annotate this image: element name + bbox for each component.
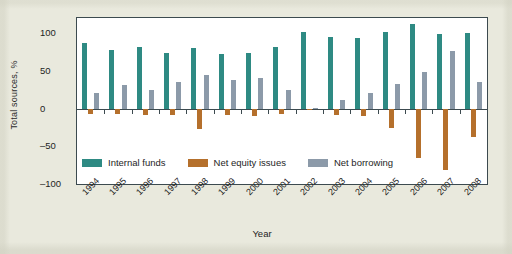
bar-net-equity-issues: [115, 109, 120, 114]
legend-item-internal-funds[interactable]: Internal funds: [82, 157, 166, 168]
x-axis-tick-mark: [132, 109, 133, 114]
bar-net-equity-issues: [471, 109, 476, 138]
x-axis-tick-mark: [268, 109, 269, 114]
bar-internal-funds: [465, 33, 470, 108]
y-axis-tick-label: 100: [40, 27, 56, 38]
bar-net-equity-issues: [170, 109, 175, 116]
y-axis-tick-label: 50: [40, 64, 51, 75]
bar-net-borrowing: [286, 90, 291, 108]
bar-internal-funds: [164, 53, 169, 108]
bar-group: [437, 18, 454, 184]
bar-net-equity-issues: [361, 109, 366, 117]
bar-net-equity-issues: [88, 109, 93, 114]
bar-net-borrowing: [422, 72, 427, 109]
bar-internal-funds: [355, 38, 360, 108]
bar-internal-funds: [273, 47, 278, 108]
y-axis-tick-label: –50: [40, 140, 56, 151]
bar-internal-funds: [219, 54, 224, 108]
legend-label: Net equity issues: [214, 157, 286, 168]
y-axis-tick-label: –100: [40, 178, 61, 189]
bar-internal-funds: [301, 32, 306, 109]
bar-net-borrowing: [231, 80, 236, 109]
bar-net-borrowing: [204, 75, 209, 109]
x-axis-tick-mark: [350, 109, 351, 114]
bar-net-borrowing: [258, 78, 263, 108]
bar-net-borrowing: [368, 93, 373, 109]
x-axis-tick-mark: [296, 109, 297, 114]
bar-net-borrowing: [340, 100, 345, 108]
bar-net-borrowing: [149, 90, 154, 109]
bar-net-equity-issues: [279, 109, 284, 114]
x-axis-tick-mark: [487, 109, 488, 114]
x-axis-tick-mark: [159, 109, 160, 114]
bar-net-equity-issues: [307, 109, 312, 111]
bar-net-equity-issues: [443, 109, 448, 170]
chart-legend: Internal fundsNet equity issuesNet borro…: [82, 157, 415, 168]
legend-label: Internal funds: [108, 157, 166, 168]
legend-swatch: [82, 159, 102, 167]
x-axis-tick-mark: [104, 109, 105, 114]
y-axis-title: Total sources, %: [6, 0, 22, 190]
bar-net-borrowing: [395, 84, 400, 108]
bar-net-equity-issues: [252, 109, 257, 117]
legend-item-net-borrowing[interactable]: Net borrowing: [308, 157, 393, 168]
bar-internal-funds: [328, 37, 333, 109]
bar-net-borrowing: [450, 51, 455, 108]
bar-internal-funds: [383, 32, 388, 108]
x-axis-tick-mark: [323, 109, 324, 114]
x-axis-tick-mark: [378, 109, 379, 114]
legend-swatch: [188, 159, 208, 167]
bar-internal-funds: [246, 53, 251, 109]
bar-group: [465, 18, 482, 184]
x-axis-tick-mark: [460, 109, 461, 114]
bar-net-borrowing: [122, 85, 127, 108]
x-axis-tick-mark: [241, 109, 242, 114]
chart-figure: Total sources, % 100500–50–100 199419951…: [0, 0, 512, 254]
bar-net-borrowing: [176, 82, 181, 108]
bar-net-equity-issues: [334, 109, 339, 115]
bar-internal-funds: [137, 47, 142, 108]
legend-item-net-equity-issues[interactable]: Net equity issues: [188, 157, 286, 168]
x-axis-title: Year: [0, 228, 512, 239]
bar-net-borrowing: [477, 82, 482, 108]
bar-internal-funds: [191, 48, 196, 108]
bar-net-borrowing: [94, 93, 99, 109]
bar-net-borrowing: [313, 108, 318, 109]
x-axis-tick-mark: [432, 109, 433, 114]
x-axis-tick-mark: [405, 109, 406, 114]
x-axis-tick-mark: [186, 109, 187, 114]
legend-label: Net borrowing: [334, 157, 393, 168]
x-axis-tick-mark: [214, 109, 215, 114]
bar-net-equity-issues: [225, 109, 230, 116]
bar-net-equity-issues: [416, 109, 421, 158]
legend-swatch: [308, 159, 328, 167]
bar-net-equity-issues: [197, 109, 202, 129]
y-axis-tick-label: 0: [40, 102, 45, 113]
bar-internal-funds: [82, 43, 87, 109]
bar-net-equity-issues: [143, 109, 148, 115]
bar-net-equity-issues: [389, 109, 394, 129]
bar-internal-funds: [410, 24, 415, 109]
bar-internal-funds: [109, 50, 114, 109]
bar-internal-funds: [437, 34, 442, 109]
